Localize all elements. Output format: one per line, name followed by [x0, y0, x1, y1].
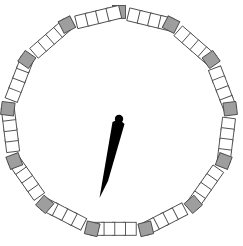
polygon-dial-figure [0, 0, 243, 246]
needle-pointer [100, 119, 125, 198]
tick-50 [1, 101, 15, 115]
vertex-tick [1, 101, 15, 115]
needle-hub [115, 115, 123, 123]
vertex-tick [223, 101, 237, 115]
dial-needle [100, 115, 125, 198]
edge-tick [106, 5, 122, 21]
vertex-tick [84, 221, 100, 237]
tick-35 [84, 221, 100, 237]
tick-30 [138, 221, 154, 237]
dial-canvas [0, 0, 243, 246]
tick-15 [223, 101, 237, 115]
tick-64 [106, 5, 122, 21]
vertex-tick [138, 221, 154, 237]
